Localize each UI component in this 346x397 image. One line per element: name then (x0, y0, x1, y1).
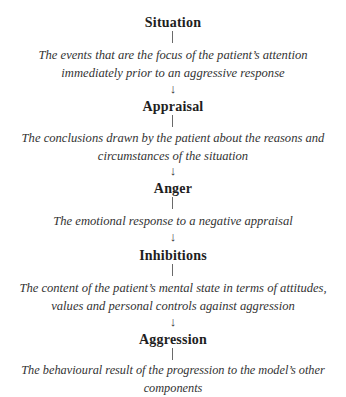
down-arrow-icon: ↓ (0, 82, 346, 96)
node-description-inhibitions-line-2: values and personal controls against agg… (0, 297, 346, 315)
node-description-aggression-line-1: The behavioural result of the progressio… (0, 361, 346, 397)
node-title-situation: Situation (0, 15, 346, 31)
node-title-appraisal: Appraisal (0, 99, 346, 115)
connector-line (172, 264, 173, 276)
down-arrow-icon: ↓ (0, 315, 346, 329)
connector-line (172, 115, 173, 127)
down-arrow-icon: ↓ (0, 230, 346, 244)
down-arrow-icon: ↓ (0, 164, 346, 178)
connector-line (172, 31, 173, 43)
connector-line (172, 348, 173, 360)
node-description-anger-line-1: The emotional response to a negative app… (0, 212, 346, 230)
node-description-situation-line-1: The events that are the focus of the pat… (0, 46, 346, 64)
node-description-inhibitions-line-1: The content of the patient’s mental stat… (0, 279, 346, 297)
node-title-aggression: Aggression (0, 332, 346, 348)
node-title-anger: Anger (0, 181, 346, 197)
node-description-appraisal-line-1: The conclusions drawn by the patient abo… (0, 129, 346, 147)
connector-line (172, 197, 173, 209)
node-title-inhibitions: Inhibitions (0, 248, 346, 264)
node-description-situation-line-2: immediately prior to an aggressive respo… (0, 64, 346, 82)
